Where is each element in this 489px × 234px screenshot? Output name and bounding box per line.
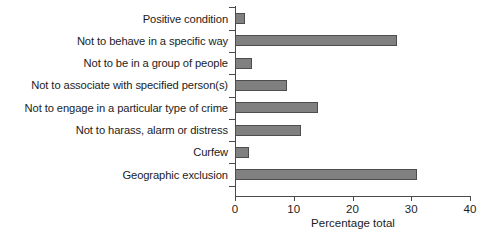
category-label: Not to associate with specified person(s… bbox=[0, 79, 228, 91]
bar bbox=[235, 80, 287, 91]
y-axis-tick bbox=[229, 74, 235, 75]
bar bbox=[235, 13, 245, 24]
category-label: Not to harass, alarm or distress bbox=[0, 124, 228, 136]
category-label: Curfew bbox=[0, 146, 228, 158]
bar bbox=[235, 169, 417, 180]
bar bbox=[235, 35, 397, 46]
y-axis-tick bbox=[229, 141, 235, 142]
category-label: Geographic exclusion bbox=[0, 169, 228, 181]
x-axis-tick-label: 30 bbox=[405, 203, 418, 216]
y-axis-tick bbox=[229, 97, 235, 98]
y-axis-tick bbox=[229, 119, 235, 120]
category-label: Not to be in a group of people bbox=[0, 57, 228, 69]
bar bbox=[235, 147, 249, 158]
bar-chart: Positive conditionNot to behave in a spe… bbox=[0, 0, 489, 234]
bar bbox=[235, 125, 301, 136]
x-axis-tick-label: 40 bbox=[464, 203, 477, 216]
x-axis-tick bbox=[411, 196, 412, 201]
x-axis-tick-label: 10 bbox=[287, 203, 300, 216]
category-label: Positive condition bbox=[0, 13, 228, 25]
y-axis-tick bbox=[229, 7, 235, 8]
bar bbox=[235, 102, 318, 113]
x-axis-title: Percentage total bbox=[235, 216, 471, 230]
x-axis-tick-label: 0 bbox=[232, 203, 238, 216]
y-axis-tick bbox=[229, 186, 235, 187]
y-axis-tick bbox=[229, 52, 235, 53]
plot-area bbox=[235, 0, 470, 196]
category-label: Not to engage in a particular type of cr… bbox=[0, 102, 228, 114]
x-axis-tick bbox=[470, 196, 471, 201]
category-label: Not to behave in a specific way bbox=[0, 35, 228, 47]
x-axis-tick bbox=[294, 196, 295, 201]
x-axis-tick bbox=[353, 196, 354, 201]
x-axis-tick-label: 20 bbox=[346, 203, 359, 216]
category-axis-labels: Positive conditionNot to behave in a spe… bbox=[0, 0, 228, 196]
y-axis-tick bbox=[229, 163, 235, 164]
y-axis-tick bbox=[229, 30, 235, 31]
bar bbox=[235, 58, 252, 69]
x-axis-tick bbox=[235, 196, 236, 201]
